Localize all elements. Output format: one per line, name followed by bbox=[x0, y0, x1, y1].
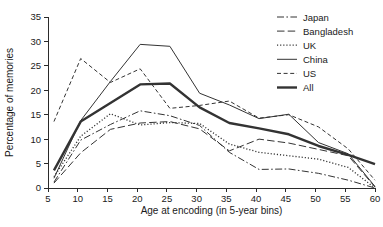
legend-label-china: China bbox=[303, 54, 329, 65]
legend-label-japan: Japan bbox=[303, 12, 329, 23]
y-tick-label: 5 bbox=[36, 158, 41, 169]
x-tick-label: 50 bbox=[310, 193, 321, 204]
x-tick-label: 20 bbox=[132, 193, 143, 204]
axis-labels-group: 0510152025303551015202530354045505560Age… bbox=[4, 11, 380, 216]
x-tick-label: 5 bbox=[45, 193, 50, 204]
x-tick-label: 10 bbox=[72, 193, 83, 204]
x-tick-label: 30 bbox=[191, 193, 202, 204]
y-tick-label: 10 bbox=[30, 134, 41, 145]
series-line-bangladesh bbox=[54, 122, 375, 187]
y-tick-label: 15 bbox=[30, 109, 41, 120]
y-tick-label: 35 bbox=[30, 11, 41, 22]
legend-label-us: US bbox=[303, 68, 316, 79]
x-tick-label: 55 bbox=[340, 193, 351, 204]
x-tick-label: 45 bbox=[281, 193, 292, 204]
y-tick-label: 25 bbox=[30, 60, 41, 71]
y-tick-label: 20 bbox=[30, 85, 41, 96]
x-tick-label: 35 bbox=[221, 193, 232, 204]
y-tick-label: 0 bbox=[36, 182, 41, 193]
x-tick-label: 40 bbox=[251, 193, 262, 204]
x-tick-label: 25 bbox=[162, 193, 173, 204]
legend-label-bangladesh: Bangladesh bbox=[303, 26, 353, 37]
line-chart: 0510152025303551015202530354045505560Age… bbox=[0, 0, 383, 227]
x-axis-title: Age at encoding (in 5-year bins) bbox=[141, 205, 283, 216]
series-group bbox=[54, 44, 375, 188]
y-axis-title: Percentage of memories bbox=[4, 48, 15, 157]
x-tick-label: 60 bbox=[370, 193, 381, 204]
x-tick-label: 15 bbox=[102, 193, 113, 204]
y-tick-label: 30 bbox=[30, 36, 41, 47]
legend-label-uk: UK bbox=[303, 40, 317, 51]
axes-group bbox=[44, 17, 375, 192]
legend-label-all: All bbox=[303, 82, 314, 93]
chart-legend: JapanBangladeshUKChinaUSAll bbox=[277, 12, 353, 94]
series-line-all bbox=[54, 83, 375, 170]
chart-container: 0510152025303551015202530354045505560Age… bbox=[0, 0, 383, 227]
